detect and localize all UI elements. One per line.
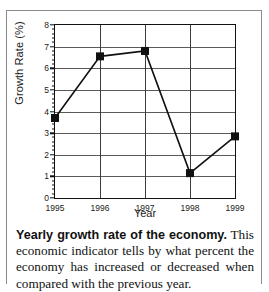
y-tick-label: 1 bbox=[44, 171, 49, 181]
y-tick-label: 4 bbox=[44, 107, 49, 117]
y-tick-label: 3 bbox=[44, 128, 49, 138]
y-tick-label: 6 bbox=[44, 63, 49, 73]
chart-area: Growth Rate (%) 012345678 19951996199719… bbox=[7, 11, 261, 223]
y-axis-title: Growth Rate (%) bbox=[13, 3, 25, 123]
series-line bbox=[55, 51, 235, 173]
y-tick-label: 5 bbox=[44, 85, 49, 95]
caption-lead: Yearly growth rate of the economy. bbox=[16, 228, 227, 242]
data-point-marker bbox=[96, 52, 104, 60]
figure-caption: Yearly growth rate of the economy. This … bbox=[16, 227, 254, 292]
data-point-marker bbox=[186, 169, 194, 177]
x-axis-title: Year bbox=[54, 207, 236, 219]
plot-frame: 012345678 19951996199719981999 bbox=[54, 24, 236, 199]
data-point-marker bbox=[51, 114, 59, 122]
data-point-marker bbox=[231, 132, 239, 140]
data-series-growth-rate bbox=[55, 25, 235, 198]
y-tick-label: 0 bbox=[44, 193, 49, 203]
y-tick-label: 2 bbox=[44, 150, 49, 160]
data-point-marker bbox=[141, 47, 149, 55]
y-tick-label: 8 bbox=[44, 20, 49, 30]
figure-panel: Growth Rate (%) 012345678 19951996199719… bbox=[6, 10, 262, 284]
y-tick-label: 7 bbox=[44, 42, 49, 52]
